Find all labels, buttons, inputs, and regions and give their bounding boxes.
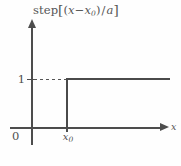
x-axis-arrowhead-icon bbox=[160, 123, 169, 131]
x-tick-label-x0: x0 bbox=[58, 131, 78, 144]
step-curve-plateau-segment bbox=[66, 78, 170, 80]
step-curve-baseline-segment bbox=[32, 127, 67, 129]
variable-x: x bbox=[68, 3, 75, 17]
origin-label: 0 bbox=[12, 129, 19, 143]
x-tick-label-subscript: 0 bbox=[68, 135, 73, 144]
step-curve-riser-segment bbox=[66, 78, 68, 128]
y-axis-arrowhead-icon bbox=[28, 19, 36, 28]
function-name: step bbox=[33, 3, 58, 17]
shift-variable-x: x bbox=[84, 3, 91, 17]
close-bracket: ] bbox=[113, 2, 118, 18]
y-tick-label-1: 1 bbox=[14, 72, 25, 86]
step-function-figure: step[(x−x0)/a] x 1 x0 0 bbox=[0, 0, 181, 166]
y-axis-expression-label: step[(x−x0)/a] bbox=[33, 4, 119, 18]
minus-sign: − bbox=[75, 3, 85, 17]
guide-dashed-line-y1 bbox=[34, 79, 67, 80]
x-axis-label: x bbox=[171, 121, 176, 132]
caption-remnant bbox=[0, 161, 181, 166]
